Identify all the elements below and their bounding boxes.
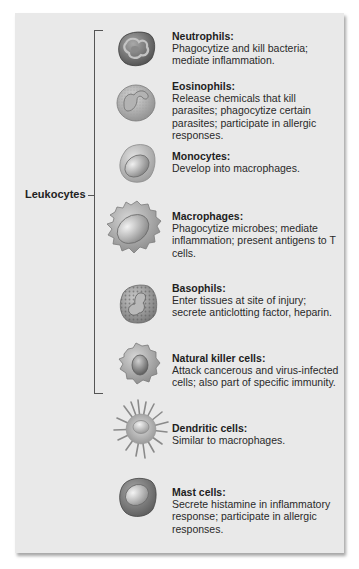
macrophages-description: Phagocytize microbes; mediate inflammati… <box>172 222 342 259</box>
eosinophils-title: Eosinophils: <box>172 80 342 92</box>
mast-cells-entry: Mast cells: Secrete histamine in inflamm… <box>172 486 342 535</box>
eosinophil-cell-icon <box>115 83 157 123</box>
macrophages-entry: Macrophages: Phagocytize microbes; media… <box>172 210 342 259</box>
monocytes-entry: Monocytes: Develop into macrophages. <box>172 150 342 174</box>
neutrophil-cell-icon <box>115 30 157 68</box>
leukocytes-group-label: Leukocytes <box>25 188 86 200</box>
monocytes-title: Monocytes: <box>172 150 342 162</box>
basophils-entry: Basophils: Enter tissues at site of inju… <box>172 282 342 319</box>
leukocytes-bracket <box>94 30 103 394</box>
neutrophils-title: Neutrophils: <box>172 30 342 42</box>
eosinophils-entry: Eosinophils: Release chemicals that kill… <box>172 80 342 141</box>
basophils-title: Basophils: <box>172 282 342 294</box>
eosinophils-description: Release chemicals that kill parasites; p… <box>172 92 342 141</box>
macrophage-cell-icon <box>104 198 164 258</box>
natural-killer-cells-description: Attack cancerous and virus-infected cell… <box>172 364 342 388</box>
dendritic-cells-entry: Dendritic cells: Similar to macrophages. <box>172 422 342 446</box>
neutrophils-entry: Neutrophils: Phagocytize and kill bacter… <box>172 30 342 67</box>
basophils-description: Enter tissues at site of injury; secrete… <box>172 294 342 318</box>
monocytes-description: Develop into macrophages. <box>172 162 342 174</box>
bracket-tick <box>88 195 94 196</box>
dendritic-cell-icon <box>112 398 170 460</box>
mast-cell-icon <box>116 475 160 519</box>
basophil-cell-icon <box>116 282 160 326</box>
natural-killer-cells-entry: Natural killer cells: Attack cancerous a… <box>172 352 342 389</box>
natural-killer-cell-icon <box>116 340 162 386</box>
macrophages-title: Macrophages: <box>172 210 342 222</box>
mast-cells-description: Secrete histamine in inflammatory respon… <box>172 498 342 535</box>
dendritic-cells-title: Dendritic cells: <box>172 422 342 434</box>
natural-killer-cells-title: Natural killer cells: <box>172 352 342 364</box>
dendritic-cells-description: Similar to macrophages. <box>172 434 342 446</box>
mast-cells-title: Mast cells: <box>172 486 342 498</box>
neutrophils-description: Phagocytize and kill bacteria; mediate i… <box>172 42 342 66</box>
monocyte-cell-icon <box>116 141 158 185</box>
